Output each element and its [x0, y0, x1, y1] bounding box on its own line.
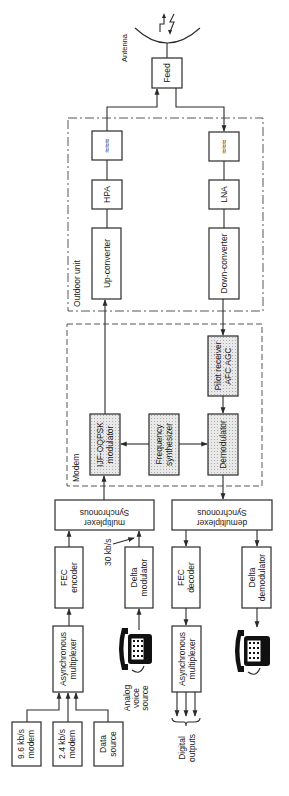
svg-text:Up-converter: Up-converter — [102, 239, 112, 288]
svg-text:encoder: encoder — [69, 562, 79, 593]
brace — [172, 718, 200, 726]
lna-block: LNA — [209, 180, 239, 209]
svg-text:Data: Data — [98, 735, 108, 753]
svg-text:FEC: FEC — [59, 569, 69, 586]
frequency-synthesizer-block: Frequency synthesizer — [149, 414, 179, 475]
rx-filter-block: ≈≈≈ — [209, 132, 239, 161]
svg-text:Synchronous: Synchronous — [80, 508, 130, 518]
svg-text:multiplexer: multiplexer — [84, 518, 125, 528]
svg-text:Demodulator: Demodulator — [218, 420, 228, 469]
svg-text:multiplexer: multiplexer — [68, 638, 78, 679]
ijf-oqpsk-modulator-block: IJF-OQPSK modulator — [90, 414, 120, 475]
signal-arrows-icon — [160, 13, 174, 35]
svg-text:Feed: Feed — [162, 63, 172, 83]
svg-text:IJF-OQPSK: IJF-OQPSK — [95, 422, 105, 467]
svg-text:≈≈≈: ≈≈≈ — [102, 138, 112, 152]
synchronous-multiplexer-block: Synchronous multiplexer — [55, 500, 154, 530]
modem-2-4kbs-block: 2.4 kb/s modem — [53, 722, 82, 766]
tx-filter-block: ≈≈≈ — [92, 131, 122, 160]
svg-text:Digital: Digital — [177, 736, 187, 760]
asynchronous-multiplexer-rx-block: Asynchronous multiplexer — [172, 626, 201, 692]
svg-text:multiplexer: multiplexer — [187, 638, 197, 679]
svg-text:Delta: Delta — [129, 567, 139, 587]
modem-9-6kbs-block: 9.6 kb/s modem — [12, 722, 41, 766]
svg-text:decoder: decoder — [186, 562, 196, 593]
svg-text:AFC AGC: AFC AGC — [223, 347, 233, 384]
rate-annotation: 30 kb/s — [103, 539, 113, 566]
analog-voice-source-label: Analog voice source — [122, 684, 150, 711]
svg-text:Asynchronous: Asynchronous — [177, 632, 187, 686]
svg-text:Pilot receiver: Pilot receiver — [213, 341, 223, 390]
svg-text:modem: modem — [26, 730, 36, 758]
svg-text:source: source — [140, 685, 150, 711]
svg-text:FEC: FEC — [176, 569, 186, 586]
fec-decoder-block: FEC decoder — [172, 547, 200, 608]
svg-text:synthesizer: synthesizer — [164, 423, 174, 466]
hpa-block: HPA — [92, 180, 122, 209]
synchronous-demultiplexer-block: Synchronous demultiplexer — [172, 500, 272, 530]
delta-demodulator-block: Delta demodulator — [242, 547, 271, 608]
delta-modulator-block: Delta modulator — [125, 547, 153, 608]
svg-text:HPA: HPA — [102, 186, 112, 203]
up-converter-block: Up-converter — [92, 228, 121, 299]
svg-text:demultiplexer: demultiplexer — [197, 518, 248, 528]
svg-text:2.4 kb/s: 2.4 kb/s — [57, 729, 67, 759]
satellite-terminal-block-diagram: Antenna Feed Outdoor unit ≈≈≈ ≈≈≈ HPA LN… — [0, 0, 289, 796]
fec-encoder-block: FEC encoder — [55, 547, 83, 608]
telephone-icon — [235, 630, 270, 674]
telephone-icon — [119, 628, 152, 672]
digital-outputs-label: Digital outputs — [177, 734, 197, 762]
svg-text:Frequency: Frequency — [154, 424, 164, 465]
svg-text:Synchronous: Synchronous — [197, 508, 247, 518]
pilot-receiver-block: Pilot receiver AFC AGC — [208, 336, 238, 396]
data-source-block: Data source — [94, 722, 123, 766]
svg-text:Outdoor unit: Outdoor unit — [72, 260, 82, 307]
svg-text:Down-converter: Down-converter — [219, 233, 229, 293]
svg-text:modem: modem — [67, 730, 77, 758]
svg-text:demodulator: demodulator — [257, 554, 267, 601]
svg-text:LNA: LNA — [219, 186, 229, 203]
svg-text:Modem: Modem — [71, 454, 81, 482]
down-converter-block: Down-converter — [209, 228, 239, 299]
demodulator-block: Demodulator — [208, 414, 238, 475]
antenna-label: Antenna — [120, 33, 129, 62]
svg-text:modulator: modulator — [105, 425, 115, 463]
svg-text:≈≈≈: ≈≈≈ — [219, 139, 229, 153]
feed-block: Feed — [152, 58, 182, 88]
antenna-dish-icon — [135, 28, 200, 58]
svg-text:Delta: Delta — [247, 567, 257, 587]
asynchronous-multiplexer-tx-block: Asynchronous multiplexer — [53, 626, 83, 692]
svg-text:source: source — [108, 731, 118, 757]
svg-text:outputs: outputs — [187, 734, 197, 762]
svg-text:modulator: modulator — [139, 558, 149, 596]
svg-text:9.6 kb/s: 9.6 kb/s — [16, 729, 26, 759]
svg-text:Asynchronous: Asynchronous — [58, 632, 68, 686]
